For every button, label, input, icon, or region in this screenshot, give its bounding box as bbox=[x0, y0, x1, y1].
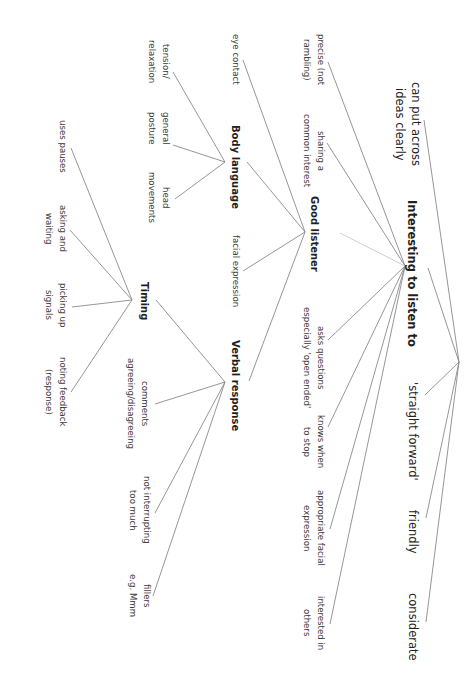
connector-verbal-timing bbox=[156, 300, 225, 382]
node-interested-in-others: interested in others bbox=[300, 596, 328, 650]
hub-timing: Timing bbox=[137, 282, 151, 320]
connector-body-tension bbox=[173, 72, 225, 162]
connector-timing-noting bbox=[71, 300, 132, 392]
connector-good-verbal-response bbox=[249, 232, 305, 381]
node-picking-up-signals: picking up signals bbox=[42, 283, 70, 327]
connector-timing-pauses bbox=[71, 148, 132, 300]
node-uses-pauses: uses pauses bbox=[56, 120, 70, 173]
node-knows-when-to-stop: knows when to stop bbox=[300, 415, 328, 468]
node-precise-not-rambling: precise (not rambling) bbox=[300, 34, 328, 85]
node-facial-expression: facial expression bbox=[229, 235, 243, 307]
node-friendly: friendly bbox=[405, 510, 421, 554]
hub-good-listener: Good listener bbox=[307, 196, 321, 272]
hub-verbal-response: Verbal response bbox=[228, 340, 242, 431]
connector-root-interesting bbox=[428, 268, 459, 362]
node-general-posture: general posture bbox=[145, 112, 173, 145]
connector-good-eye-contact bbox=[243, 60, 305, 232]
connector-interesting-asks bbox=[328, 266, 405, 340]
node-tension-relaxation: tension/ relaxation bbox=[145, 40, 173, 83]
node-considerate: considerate bbox=[405, 593, 421, 661]
node-noting-feedback: noting feedback (response) bbox=[42, 357, 70, 427]
connector-good-facial-expression bbox=[243, 232, 305, 271]
node-appropriate-facial-expression: appropriate facial expression bbox=[300, 490, 328, 566]
mind-map-canvas: can put across ideas clearly Interesting… bbox=[0, 0, 464, 685]
node-asking-and-waiting: asking and waiting bbox=[42, 205, 70, 252]
connector-timing-picking bbox=[72, 300, 132, 307]
connector-root-considerate bbox=[426, 362, 459, 622]
node-not-interrupting: not interrupting too much bbox=[126, 476, 154, 544]
node-eye-contact: eye contact bbox=[229, 34, 243, 85]
connector-verbal-fillers bbox=[153, 382, 225, 596]
node-asks-questions: asks questions especially 'open ended' bbox=[300, 307, 328, 408]
hub-body-language: Body language bbox=[228, 125, 242, 209]
connector-interesting-appropriate bbox=[330, 266, 405, 529]
node-comments-agreeing: comments agreeing/disagreeing bbox=[124, 358, 152, 449]
connector-body-posture bbox=[173, 145, 225, 162]
hub-interesting-to-listen-to: Interesting to listen to bbox=[405, 200, 419, 347]
connector-verbal-not-interrupting bbox=[155, 382, 225, 513]
node-fillers: fillers e.g. Mmm bbox=[126, 574, 154, 617]
connector-good-body-language bbox=[247, 162, 305, 232]
connector-interesting-interested bbox=[330, 266, 405, 624]
node-sharing-common-interest: sharing a common interest bbox=[300, 114, 328, 187]
connector-interesting-good-listener bbox=[340, 233, 405, 266]
node-head-movements: head movements bbox=[145, 172, 173, 223]
node-straight-forward: 'straight forward' bbox=[405, 382, 421, 481]
connector-root-can-put-across bbox=[424, 120, 459, 362]
connector-body-head bbox=[175, 162, 225, 199]
node-can-put-across: can put across ideas clearly bbox=[392, 82, 424, 166]
connector-interesting-knows bbox=[328, 266, 405, 427]
connector-root-straight-forward bbox=[425, 362, 459, 395]
connector-timing-asking bbox=[70, 230, 132, 300]
